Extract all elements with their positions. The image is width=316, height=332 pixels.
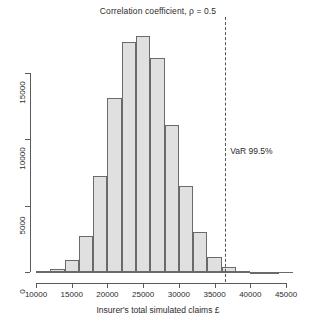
histogram-bar [122, 42, 136, 272]
x-axis-tick [72, 283, 73, 288]
histogram-bar [165, 125, 179, 272]
x-axis-tick [107, 283, 108, 288]
histogram-bar [150, 58, 164, 272]
histogram-screenshot: Correlation coefficient, ρ = 0.5 0500010… [0, 0, 316, 332]
x-axis-tick [286, 283, 287, 288]
y-axis-tick-label: 5000 [18, 205, 27, 245]
x-axis-tick-label: 40000 [230, 290, 270, 299]
histogram-bar [222, 267, 236, 272]
histogram-bar [250, 272, 264, 274]
histogram-bar [36, 271, 50, 273]
x-axis-tick-label: 20000 [87, 290, 127, 299]
histogram-bar [107, 98, 121, 272]
histogram-bar [179, 186, 193, 272]
x-axis-tick [36, 283, 37, 288]
histogram-bar [79, 236, 93, 272]
x-axis-tick-label: 35000 [195, 290, 235, 299]
var-threshold-label: VaR 99.5% [230, 146, 272, 156]
histogram-bar [136, 36, 150, 272]
histogram-bar [193, 232, 207, 272]
var-threshold-line [225, 17, 226, 282]
plot-area: 0500010000150001000015000200002500030000… [0, 0, 316, 332]
x-axis-tick [143, 283, 144, 288]
y-axis-tick-label: 10000 [18, 139, 27, 179]
x-axis-tick-label: 15000 [52, 290, 92, 299]
histogram-bar [93, 176, 107, 272]
x-axis-title: Insurer's total simulated claims £ [0, 305, 316, 315]
y-axis-line [30, 73, 31, 272]
histogram-bar [50, 269, 64, 272]
x-axis-line [36, 283, 286, 284]
histogram-bar [207, 257, 221, 272]
x-axis-tick-label: 30000 [159, 290, 199, 299]
y-axis-tick-label: 15000 [18, 73, 27, 113]
histogram-bar [265, 272, 279, 274]
x-axis-tick [250, 283, 251, 288]
x-axis-tick-label: 45000 [266, 290, 306, 299]
histogram-bar [236, 271, 250, 273]
histogram-bar [65, 260, 79, 272]
x-axis-tick [179, 283, 180, 288]
x-axis-tick-label: 25000 [123, 290, 163, 299]
x-axis-tick-label: 10000 [16, 290, 56, 299]
x-axis-tick [215, 283, 216, 288]
